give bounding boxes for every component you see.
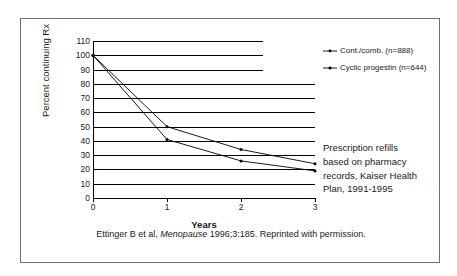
series-line [93,55,315,163]
y-tick-label: 60 [81,108,90,117]
data-point [240,148,243,151]
legend-item-cont-comb: Cont./comb. (n=888) [323,47,439,55]
x-tick-mark [167,198,168,202]
chart-area: 0102030405060708090100110 0123 Percent c… [21,19,441,219]
caption-journal-name: Menopause [160,229,207,239]
y-tick-label: 50 [81,122,90,131]
y-tick-label: 40 [81,137,90,146]
data-point [314,169,317,172]
y-tick-label: 70 [81,94,90,103]
caption-part-2: 1996;3:185. Reprinted with permission. [210,229,366,239]
y-axis-title: Percent continuing Rx [40,11,51,131]
x-tick-label: 2 [239,203,244,212]
annotation-line-4: Plan, 1991-1995 [323,182,443,196]
legend-item-cyclic-progestin: Cyclic progestin (n=644) [323,64,439,72]
annotation-text: Prescription refills based on pharmacy r… [323,141,443,196]
data-point [166,125,169,128]
y-tick-label: 10 [81,179,90,188]
x-axis-line [93,198,315,199]
x-tick-mark [241,198,242,202]
figure-panel: 0102030405060708090100110 0123 Percent c… [20,18,440,263]
x-tick-label: 3 [313,203,318,212]
data-point [166,138,169,141]
data-point [240,159,243,162]
y-tick-label: 80 [81,80,90,89]
y-tick-label: 110 [76,37,90,46]
x-tick-mark [315,198,316,202]
annotation-line-2: based on pharmacy [323,155,443,169]
series-line [93,55,315,171]
legend-label: Cont./comb. (n=888) [340,47,413,55]
chart-legend: Cont./comb. (n=888) Cyclic progestin (n=… [323,47,439,81]
legend-label: Cyclic progestin (n=644) [340,64,426,72]
data-point [92,54,95,57]
y-tick-label: 90 [81,65,90,74]
x-tick-labels: 0123 [93,203,315,215]
y-tick-labels: 0102030405060708090100110 [65,41,90,198]
series-lines [93,41,315,198]
y-tick-label: 20 [81,165,90,174]
annotation-line-3: records, Kaiser Health [323,169,443,183]
x-tick-mark [93,198,94,202]
legend-line-marker-icon [323,47,337,55]
data-point [314,162,317,165]
annotation-line-1: Prescription refills [323,141,443,155]
x-tick-label: 1 [165,203,170,212]
y-tick-label: 0 [85,194,90,203]
legend-line-marker-icon [323,64,337,72]
caption-part-1: Ettinger B et al, [96,229,158,239]
x-tick-label: 0 [91,203,96,212]
figure-caption: Ettinger B et al, Menopause 1996;3:185. … [21,229,441,239]
y-tick-label: 30 [81,151,90,160]
y-tick-label: 100 [76,51,90,60]
